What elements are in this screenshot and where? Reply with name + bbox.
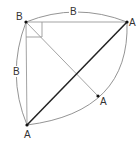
geometry-diagram: B A A A B B bbox=[0, 0, 137, 142]
label-left-edge: B bbox=[13, 66, 20, 77]
label-a-bottom-left: A bbox=[24, 129, 31, 140]
point-b bbox=[24, 20, 27, 23]
label-a-top-right: A bbox=[129, 17, 136, 28]
label-b: B bbox=[16, 11, 23, 22]
point-a-bottom-left bbox=[25, 123, 28, 126]
label-a-mid: A bbox=[100, 96, 107, 107]
label-top-edge: B bbox=[70, 6, 77, 17]
line-b-a-mid bbox=[26, 22, 98, 96]
